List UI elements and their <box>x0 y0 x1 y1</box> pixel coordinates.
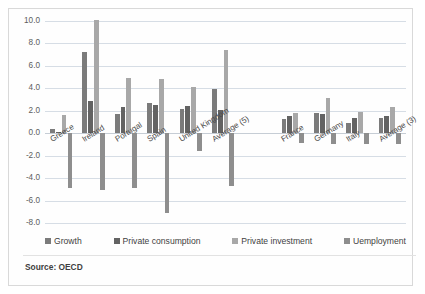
legend-swatch-icon <box>114 238 120 244</box>
bar <box>147 103 152 133</box>
bar <box>299 133 304 143</box>
chart-frame: 10.08.06.04.02.00.0-2.0-4.0-6.0-8.0 Gree… <box>8 8 413 286</box>
bar <box>396 133 401 144</box>
legend-item[interactable]: Growth <box>45 237 82 246</box>
legend-label: Uemployment <box>353 237 406 246</box>
bar-group <box>276 21 308 223</box>
bar <box>379 118 384 134</box>
y-axis-tick-label: 8.0 <box>29 39 40 47</box>
bar <box>229 133 234 186</box>
y-axis-tick-label: 6.0 <box>29 62 40 70</box>
bar <box>100 133 105 190</box>
legend-item[interactable]: Private investment <box>232 237 312 246</box>
y-axis-tick-label: 10.0 <box>24 17 40 25</box>
y-axis-tick-label: 0.0 <box>29 129 40 137</box>
gridline <box>45 223 406 224</box>
legend-item[interactable]: Private consumption <box>114 237 201 246</box>
bar-series-container <box>45 21 406 223</box>
bar <box>68 133 73 188</box>
bar <box>331 133 336 144</box>
bar-group <box>142 21 174 223</box>
bar <box>115 114 120 133</box>
bar <box>224 50 229 133</box>
bar <box>314 113 319 133</box>
y-axis-tick-label: 2.0 <box>29 107 40 115</box>
bar <box>364 133 369 144</box>
source-note: Source: OECD <box>25 263 83 271</box>
bar <box>82 52 87 133</box>
legend-label: Private investment <box>241 237 312 246</box>
bar-group <box>341 21 373 223</box>
y-axis-tick-label: -4.0 <box>26 174 40 182</box>
y-axis-tick-label: -8.0 <box>26 219 40 227</box>
legend-swatch-icon <box>45 238 51 244</box>
legend-swatch-icon <box>232 238 238 244</box>
bar-group <box>77 21 109 223</box>
legend-item[interactable]: Uemployment <box>344 237 406 246</box>
bar <box>165 133 170 213</box>
y-axis-tick-label: -6.0 <box>26 196 40 204</box>
bar <box>358 112 363 133</box>
y-axis-tick-label: 4.0 <box>29 84 40 92</box>
chart-legend: GrowthPrivate consumptionPrivate investm… <box>45 233 406 249</box>
legend-swatch-icon <box>344 238 350 244</box>
legend-label: Private consumption <box>123 237 201 246</box>
bar-group <box>45 21 77 223</box>
legend-label: Growth <box>54 237 82 246</box>
bar <box>197 133 202 151</box>
y-axis-tick-label: -2.0 <box>26 152 40 160</box>
bar <box>94 20 99 133</box>
bar <box>132 133 137 188</box>
bar <box>180 109 185 134</box>
footer-divider <box>23 255 416 256</box>
plot-area: 10.08.06.04.02.00.0-2.0-4.0-6.0-8.0 Gree… <box>45 21 406 223</box>
